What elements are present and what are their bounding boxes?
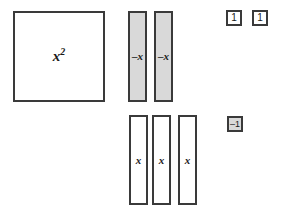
tile-positive-x-1[interactable]: x [129, 115, 148, 205]
tile-negative-x-2-label: –x [158, 51, 169, 62]
tile-x-squared-label: x2 [53, 49, 66, 64]
tile-x-squared[interactable]: x2 [13, 11, 105, 102]
tile-positive-x-3-label: x [185, 155, 191, 166]
tile-unit-one-1-label: 1 [231, 13, 237, 23]
tile-negative-x-2[interactable]: –x [154, 11, 173, 102]
tile-unit-one-1[interactable]: 1 [226, 10, 242, 26]
algebra-tiles-diagram: x2 –x –x x x x 1 1 –1 [0, 0, 281, 215]
tile-unit-negative-one[interactable]: –1 [227, 116, 243, 132]
tile-positive-x-3[interactable]: x [178, 115, 197, 205]
tile-unit-one-2[interactable]: 1 [252, 10, 268, 26]
tile-unit-one-2-label: 1 [257, 13, 263, 23]
tile-positive-x-1-label: x [136, 155, 142, 166]
tile-positive-x-2[interactable]: x [152, 115, 171, 205]
tile-negative-x-1[interactable]: –x [128, 11, 147, 102]
tile-unit-negative-one-label: –1 [230, 120, 240, 129]
tile-positive-x-2-label: x [159, 155, 165, 166]
tile-negative-x-1-label: –x [132, 51, 143, 62]
